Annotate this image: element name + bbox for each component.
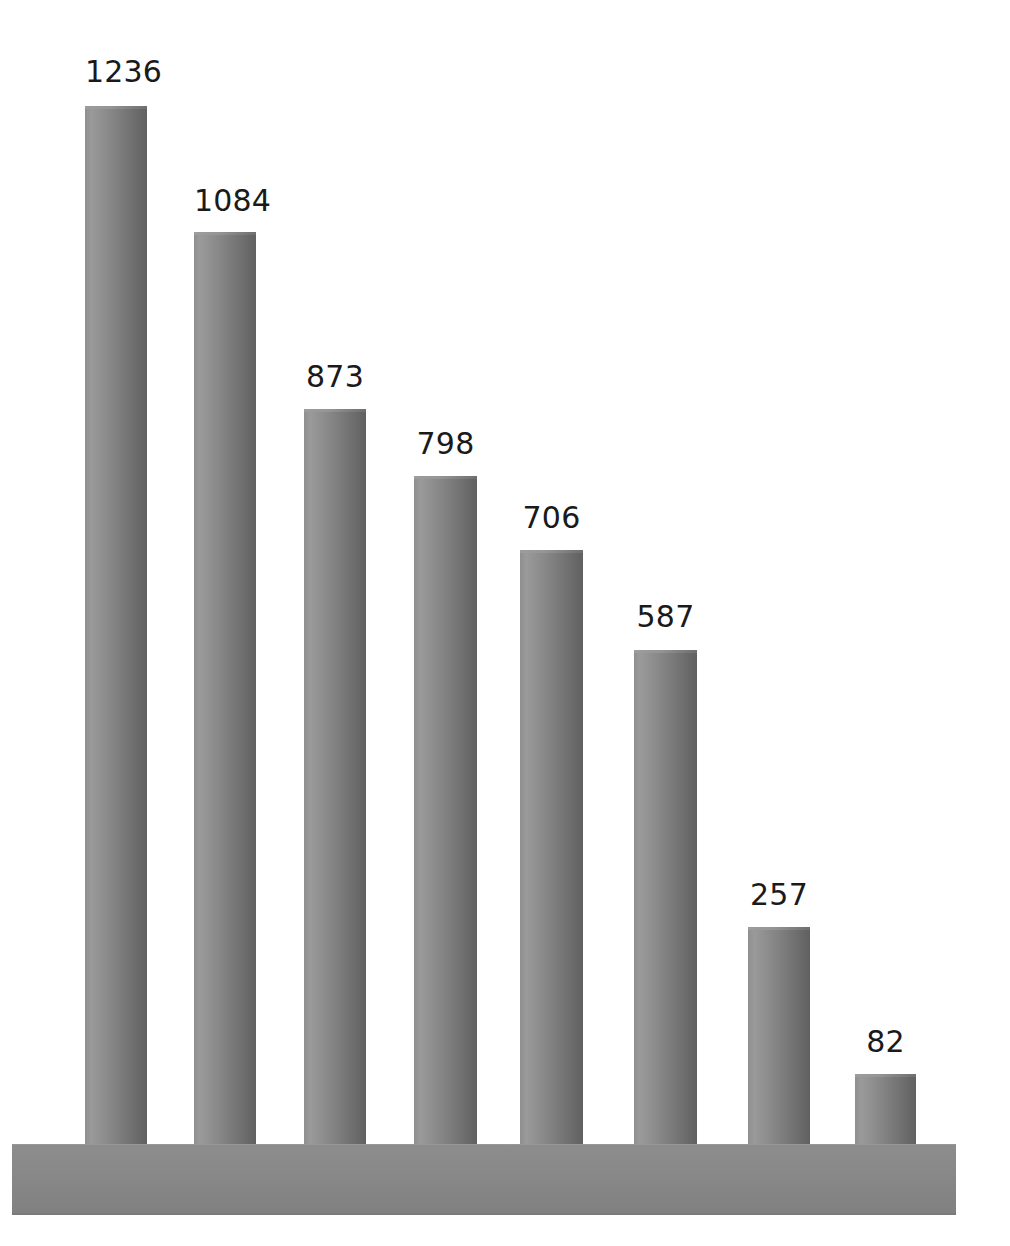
bar-top-edge: [194, 232, 256, 235]
bar-top-edge: [304, 409, 366, 412]
bar-value-label: 798: [414, 429, 477, 459]
bar-top-edge: [855, 1074, 916, 1077]
bar-value-label: 82: [855, 1027, 916, 1057]
bar[interactable]: [85, 106, 147, 1154]
bar-value-label: 1084: [194, 186, 256, 216]
bar[interactable]: [304, 409, 366, 1154]
bar[interactable]: [414, 476, 477, 1154]
bar-top-edge: [85, 106, 147, 109]
bar[interactable]: [520, 550, 583, 1154]
bar-top-edge: [414, 476, 477, 479]
bar-top-edge: [748, 927, 810, 930]
bar-value-label: 706: [520, 503, 583, 533]
bar-value-label: 587: [634, 602, 697, 632]
bar-value-label: 873: [304, 362, 366, 392]
bar[interactable]: [634, 650, 697, 1154]
bar-chart: 1236108487379870658725782: [0, 0, 1010, 1246]
platform-base: [12, 1144, 956, 1215]
bars-layer: 1236108487379870658725782: [0, 0, 1010, 1150]
bar-value-label: 257: [748, 880, 810, 910]
bar[interactable]: [748, 927, 810, 1154]
bar-value-label: 1236: [85, 57, 147, 87]
bar-top-edge: [520, 550, 583, 553]
bar[interactable]: [194, 232, 256, 1154]
bar-top-edge: [634, 650, 697, 653]
bar[interactable]: [855, 1074, 916, 1154]
